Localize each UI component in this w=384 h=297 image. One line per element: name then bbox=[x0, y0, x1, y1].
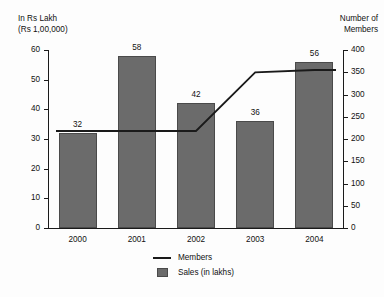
left-tick-label: 20 bbox=[10, 165, 40, 173]
right-tick-mark bbox=[344, 206, 348, 207]
category-label: 2001 bbox=[115, 236, 159, 244]
left-axis-title: In Rs Lakh (Rs 1,00,000) bbox=[18, 14, 68, 35]
left-tick-label: 60 bbox=[10, 46, 40, 54]
category-axis-line bbox=[48, 228, 344, 229]
right-tick-mark bbox=[344, 161, 348, 162]
legend-label-sales: Sales (in lakhs) bbox=[178, 268, 234, 277]
right-tick-mark bbox=[344, 184, 348, 185]
right-tick-label: 150 bbox=[351, 157, 381, 165]
left-tick-label: 50 bbox=[10, 76, 40, 84]
members-line-series bbox=[48, 50, 344, 228]
left-tick-label: 10 bbox=[10, 194, 40, 202]
box-swatch-icon bbox=[152, 268, 172, 277]
right-tick-mark bbox=[344, 50, 348, 51]
right-axis-title: Number of Members bbox=[340, 14, 378, 35]
line-swatch-icon bbox=[152, 257, 172, 259]
chart-page: In Rs Lakh (Rs 1,00,000) Number of Membe… bbox=[0, 0, 384, 297]
left-tick-mark bbox=[44, 228, 48, 229]
legend-item-sales: Sales (in lakhs) bbox=[152, 265, 302, 280]
right-tick-mark bbox=[344, 95, 348, 96]
right-tick-mark bbox=[344, 117, 348, 118]
left-tick-label: 30 bbox=[10, 135, 40, 143]
right-tick-label: 50 bbox=[351, 202, 381, 210]
left-tick-label: 40 bbox=[10, 105, 40, 113]
plot-area: 0102030405060 050100150200250300350400 3… bbox=[48, 50, 344, 228]
right-tick-label: 350 bbox=[351, 68, 381, 76]
right-tick-mark bbox=[344, 228, 348, 229]
category-label: 2004 bbox=[292, 236, 336, 244]
right-tick-label: 0 bbox=[351, 224, 381, 232]
right-tick-label: 400 bbox=[351, 46, 381, 54]
legend-item-members: Members bbox=[152, 250, 302, 265]
right-tick-label: 100 bbox=[351, 180, 381, 188]
members-line-path bbox=[56, 70, 336, 131]
left-tick-label: 0 bbox=[10, 224, 40, 232]
category-label: 2003 bbox=[233, 236, 277, 244]
category-label: 2002 bbox=[174, 236, 218, 244]
legend-label-members: Members bbox=[178, 253, 212, 262]
right-tick-label: 250 bbox=[351, 113, 381, 121]
right-tick-label: 300 bbox=[351, 91, 381, 99]
right-tick-label: 200 bbox=[351, 135, 381, 143]
chart-legend: Members Sales (in lakhs) bbox=[152, 250, 302, 280]
right-tick-mark bbox=[344, 139, 348, 140]
category-label: 2000 bbox=[56, 236, 100, 244]
right-tick-mark bbox=[344, 72, 348, 73]
